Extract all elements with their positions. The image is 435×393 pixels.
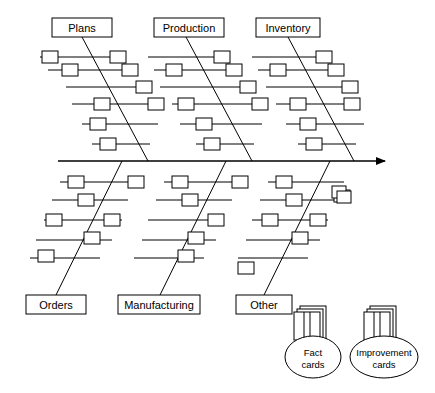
cause-node-plans-0[interactable] bbox=[42, 51, 58, 63]
cause-node-production-3[interactable] bbox=[240, 81, 256, 93]
cause-node-plans-3[interactable] bbox=[122, 64, 138, 76]
cause-node-manufacturing-5[interactable] bbox=[178, 250, 194, 262]
cause-node-plans-8[interactable] bbox=[100, 138, 116, 150]
cause-node-other-2[interactable] bbox=[286, 194, 302, 206]
cause-node-inventory-6[interactable] bbox=[300, 118, 316, 130]
cause-node-production-2[interactable] bbox=[226, 64, 242, 76]
category-bone-manufacturing bbox=[160, 161, 226, 295]
twigs-layer bbox=[30, 57, 364, 258]
cause-node-manufacturing-3[interactable] bbox=[208, 214, 224, 226]
cause-node-orders-4[interactable] bbox=[104, 214, 120, 226]
legend-label-line2-improvement-cards: cards bbox=[372, 359, 395, 370]
cause-node-plans-7[interactable] bbox=[90, 118, 106, 130]
cause-node-orders-1[interactable] bbox=[128, 176, 144, 188]
cause-node-manufacturing-4[interactable] bbox=[188, 232, 204, 244]
category-bone-orders bbox=[56, 161, 122, 295]
category-label-plans: Plans bbox=[68, 22, 96, 34]
cause-node-other-3[interactable] bbox=[262, 214, 278, 226]
cause-node-orders-3[interactable] bbox=[46, 214, 62, 226]
cause-node-other-4[interactable] bbox=[310, 214, 326, 226]
cause-node-plans-2[interactable] bbox=[62, 64, 78, 76]
category-label-manufacturing: Manufacturing bbox=[124, 299, 194, 311]
cause-node-other-6[interactable] bbox=[238, 262, 254, 274]
cause-node-orders-6[interactable] bbox=[38, 250, 54, 262]
legend-label-line1-fact-cards: Fact bbox=[304, 347, 323, 358]
cause-node-inventory-4[interactable] bbox=[290, 98, 306, 110]
cause-node-plans-4[interactable] bbox=[136, 81, 152, 93]
cause-node-inventory-2[interactable] bbox=[328, 64, 344, 76]
cause-node-plans-6[interactable] bbox=[148, 98, 164, 110]
cause-node-production-7[interactable] bbox=[204, 138, 220, 150]
legend-label-line1-improvement-cards: Improvement bbox=[356, 347, 412, 358]
cause-node-production-5[interactable] bbox=[252, 98, 268, 110]
fishbone-diagram: PlansProductionInventoryOrdersManufactur… bbox=[0, 0, 435, 393]
cause-node-inventory-3[interactable] bbox=[342, 81, 358, 93]
cause-node-orders-0[interactable] bbox=[68, 176, 84, 188]
bones-layer bbox=[56, 37, 354, 295]
cause-node-manufacturing-2[interactable] bbox=[182, 194, 198, 206]
cause-node-plans-1[interactable] bbox=[110, 51, 126, 63]
cause-node-production-0[interactable] bbox=[214, 51, 230, 63]
cause-node-production-4[interactable] bbox=[178, 98, 194, 110]
category-label-other: Other bbox=[250, 299, 278, 311]
cause-node-orders-5[interactable] bbox=[84, 232, 100, 244]
floating-node-1[interactable] bbox=[337, 191, 351, 203]
category-label-orders: Orders bbox=[39, 299, 73, 311]
cause-node-production-6[interactable] bbox=[196, 118, 212, 130]
category-label-inventory: Inventory bbox=[265, 22, 311, 34]
legend-label-line2-fact-cards: cards bbox=[301, 359, 324, 370]
cause-node-inventory-7[interactable] bbox=[306, 138, 322, 150]
cause-node-manufacturing-1[interactable] bbox=[232, 176, 248, 188]
cause-node-manufacturing-0[interactable] bbox=[172, 176, 188, 188]
category-label-production: Production bbox=[163, 22, 216, 34]
nodes-layer bbox=[38, 51, 360, 274]
legend-layer: FactcardsImprovementcards bbox=[285, 306, 418, 378]
cause-node-other-5[interactable] bbox=[292, 232, 308, 244]
cause-node-inventory-5[interactable] bbox=[344, 98, 360, 110]
category-bone-other bbox=[264, 161, 330, 295]
cause-node-other-0[interactable] bbox=[276, 176, 292, 188]
fishbone-canvas: PlansProductionInventoryOrdersManufactur… bbox=[0, 0, 435, 393]
cause-node-orders-2[interactable] bbox=[78, 194, 94, 206]
cause-node-plans-5[interactable] bbox=[94, 98, 110, 110]
cause-node-inventory-0[interactable] bbox=[316, 51, 332, 63]
cause-node-production-1[interactable] bbox=[166, 64, 182, 76]
cause-node-inventory-1[interactable] bbox=[270, 64, 286, 76]
